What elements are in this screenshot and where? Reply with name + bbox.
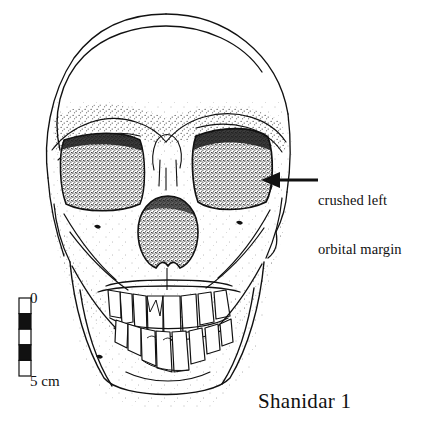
- annotation-label: crushed left orbital margin: [318, 160, 402, 290]
- specimen-label: Shanidar 1: [258, 390, 351, 414]
- scale-bar: [19, 298, 31, 376]
- annotation-label-line1: crushed left: [318, 192, 402, 208]
- scale-bar-top-label: 0: [30, 290, 38, 307]
- scale-bar-bottom-label: 5 cm: [30, 373, 60, 390]
- annotation-label-line2: orbital margin: [318, 241, 402, 257]
- figure-skull-shanidar-1: crushed left orbital margin Shanidar 1 0…: [0, 0, 431, 437]
